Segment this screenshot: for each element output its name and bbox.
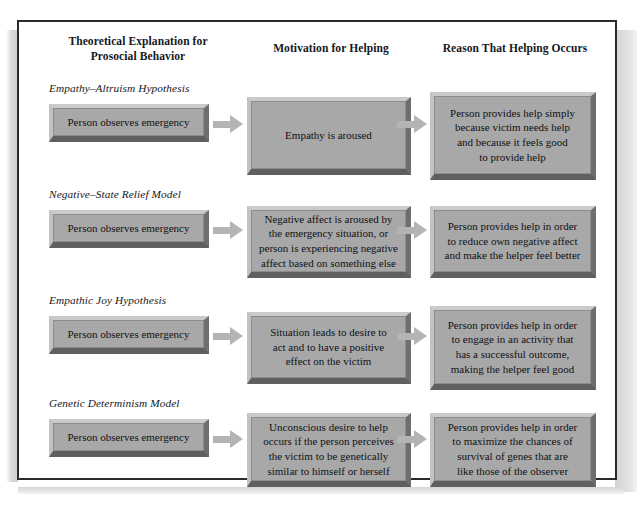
box-motivation-text-row-2: Negative affect is aroused bythe emergen… (257, 212, 400, 271)
box-reason-row-2: Person provides help in orderto reduce o… (430, 206, 596, 278)
column-header-theoretical-explanation: Theoretical Explanation forProsocial Beh… (33, 34, 243, 64)
row-title-negative-state-relief: Negative–State Relief Model (49, 188, 181, 200)
right-arrow-icon (397, 327, 427, 345)
box-reason-row-1: Person provides help simplybecause victi… (430, 92, 596, 180)
box-motivation-text-row-1: Empathy is aroused (257, 128, 400, 143)
right-arrow-icon (397, 221, 427, 239)
box-trigger-row-1: Person observes emergency (49, 104, 209, 142)
box-reason-text-row-2: Person provides help in orderto reduce o… (440, 219, 585, 263)
box-trigger-text-row-2: Person observes emergency (59, 221, 198, 236)
box-reason-text-row-4: Person provides help in orderto maximize… (440, 420, 585, 479)
box-trigger-row-4: Person observes emergency (49, 419, 209, 457)
row-title-empathy-altruism: Empathy–Altruism Hypothesis (49, 82, 189, 94)
row-title-empathic-joy: Empathic Joy Hypothesis (49, 294, 166, 306)
right-arrow-icon (397, 430, 427, 448)
box-motivation-text-row-4: Unconscious desire to helpoccurs if the … (257, 420, 400, 479)
box-motivation-row-4: Unconscious desire to helpoccurs if the … (247, 413, 411, 487)
box-motivation-text-row-3: Situation leads to desire toact and to h… (257, 325, 400, 369)
right-arrow-icon (213, 430, 243, 448)
diagram-row-empathy-altruism: Empathy–Altruism Hypothesis Person obser… (19, 82, 619, 182)
box-motivation-row-2: Negative affect is aroused bythe emergen… (247, 206, 411, 278)
box-motivation-row-3: Situation leads to desire toact and to h… (247, 312, 411, 384)
box-motivation-row-1: Empathy is aroused (247, 97, 411, 175)
column-header-motivation-for-helping: Motivation for Helping (243, 41, 419, 56)
box-trigger-text-row-1: Person observes emergency (59, 115, 198, 130)
diagram-row-empathic-joy: Empathic Joy Hypothesis Person observes … (19, 294, 619, 394)
diagram-row-negative-state-relief: Negative–State Relief Model Person obser… (19, 188, 619, 288)
right-arrow-icon (397, 115, 427, 133)
right-arrow-icon (213, 115, 243, 133)
figure-frame: Theoretical Explanation forProsocial Beh… (17, 20, 617, 480)
box-trigger-text-row-4: Person observes emergency (59, 430, 198, 445)
figure-content: Theoretical Explanation forProsocial Beh… (19, 22, 615, 478)
box-trigger-text-row-3: Person observes emergency (59, 327, 198, 342)
row-title-genetic-determinism: Genetic Determinism Model (49, 397, 180, 409)
right-arrow-icon (213, 221, 243, 239)
column-header-reason-that-helping-occurs: Reason That Helping Occurs (419, 41, 611, 56)
box-trigger-row-2: Person observes emergency (49, 210, 209, 248)
box-reason-text-row-1: Person provides help simplybecause victi… (440, 106, 585, 165)
diagram-row-genetic-determinism: Genetic Determinism Model Person observe… (19, 397, 619, 497)
box-reason-text-row-3: Person provides help in orderto engage i… (440, 318, 585, 377)
box-trigger-row-3: Person observes emergency (49, 316, 209, 354)
box-reason-row-3: Person provides help in orderto engage i… (430, 306, 596, 390)
right-arrow-icon (213, 327, 243, 345)
box-reason-row-4: Person provides help in orderto maximize… (430, 413, 596, 487)
